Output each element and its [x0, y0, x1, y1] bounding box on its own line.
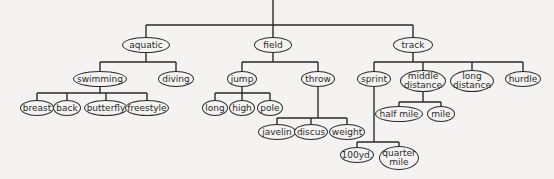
node-label: long [205, 104, 224, 113]
node-breast: breast [20, 100, 54, 116]
node-yd100: 100yd. [340, 147, 374, 163]
node-label: breast [23, 104, 52, 113]
node-label: swimming [77, 75, 123, 84]
node-pole: pole [257, 100, 283, 116]
node-label: middle distance [404, 72, 442, 90]
node-jump: jump [227, 71, 257, 87]
node-label: 100yd. [341, 151, 372, 160]
node-label: half mile [379, 110, 418, 119]
node-label: freestyle [127, 104, 166, 113]
node-high: high [229, 100, 255, 116]
node-weight: weight [329, 124, 365, 140]
node-quarter-mile: quarter mile [379, 146, 419, 170]
node-label: quarter mile [382, 149, 415, 167]
node-sprint: sprint [357, 71, 391, 87]
node-butterfly: butterfly [84, 100, 128, 116]
node-aquatic: aquatic [122, 37, 170, 53]
node-track: track [393, 37, 433, 53]
node-hurdle: hurdle [505, 71, 541, 87]
node-field: field [254, 37, 292, 53]
node-half-mile: half mile [375, 106, 423, 122]
node-label: long distance [453, 72, 491, 90]
node-label: high [232, 104, 252, 113]
node-freestyle: freestyle [125, 100, 169, 116]
node-javelin: javelin [258, 124, 296, 140]
node-throw: throw [301, 71, 335, 87]
node-diving: diving [158, 71, 194, 87]
node-swimming: swimming [73, 71, 127, 87]
node-long: long [202, 100, 228, 116]
node-label: sprint [361, 75, 387, 84]
node-label: butterfly [87, 104, 126, 113]
node-label: throw [305, 75, 331, 84]
node-middle-distance: middle distance [400, 70, 446, 92]
node-label: javelin [262, 128, 292, 137]
node-label: field [263, 41, 282, 50]
node-label: discus [297, 128, 325, 137]
node-label: back [56, 104, 77, 113]
node-mile: mile [427, 106, 455, 122]
node-back: back [53, 100, 81, 116]
node-label: aquatic [129, 41, 162, 50]
node-label: jump [231, 75, 254, 84]
node-label: track [402, 41, 425, 50]
node-long-distance: long distance [450, 70, 494, 92]
node-label: hurdle [509, 75, 538, 84]
node-label: mile [431, 110, 450, 119]
node-discus: discus [294, 124, 328, 140]
node-label: weight [332, 128, 362, 137]
node-label: pole [260, 104, 279, 113]
node-label: diving [162, 75, 189, 84]
